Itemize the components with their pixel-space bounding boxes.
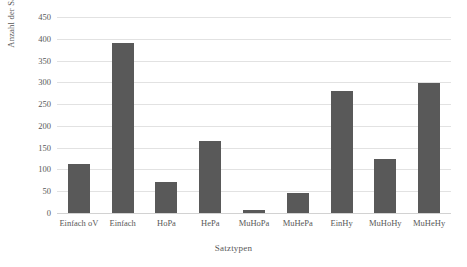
y-axis-tick-label: 450	[38, 12, 51, 22]
x-axis-tick-label: Einfach oV	[59, 218, 98, 228]
bar	[418, 83, 440, 213]
x-axis-tick-label: HePa	[201, 218, 219, 228]
y-axis-tick-label: 150	[38, 143, 51, 153]
y-axis-tick-label: 350	[38, 56, 51, 66]
axis-baseline	[57, 213, 451, 214]
bar	[331, 91, 353, 213]
y-axis-tick-label: 300	[38, 77, 51, 87]
x-axis-tick-label: EinHy	[330, 218, 352, 228]
bar	[243, 210, 265, 213]
y-axis-tick-label: 200	[38, 121, 51, 131]
x-axis-tick-label: Einfach	[109, 218, 135, 228]
x-axis-title: Satztypen	[0, 243, 467, 253]
x-axis-tick-label: MuHeHy	[413, 218, 445, 228]
y-axis-tick-label: 100	[38, 164, 51, 174]
y-axis-tick-label: 400	[38, 34, 51, 44]
bar	[199, 141, 221, 213]
x-axis-tick-labels: Einfach oVEinfachHoPaHePaMuHoPaMuHePaEin…	[57, 218, 451, 234]
x-axis-tick-label: HoPa	[157, 218, 176, 228]
bars-layer	[57, 17, 451, 213]
x-axis-tick-label: MuHoHy	[369, 218, 402, 228]
y-axis-tick-label: 250	[38, 99, 51, 109]
y-axis-tick-label: 50	[43, 186, 52, 196]
bar	[287, 193, 309, 213]
bar	[68, 164, 90, 213]
bar-chart-figure: Anzahl der Sätze 05010015020025030035040…	[0, 0, 467, 267]
bar	[374, 159, 396, 213]
y-axis-tick-label: 0	[47, 208, 51, 218]
plot-area: 050100150200250300350400450	[57, 17, 451, 213]
bar	[112, 43, 134, 213]
y-axis-title: Anzahl der Sätze	[6, 0, 22, 82]
bar	[155, 182, 177, 213]
x-axis-tick-label: MuHoPa	[239, 218, 270, 228]
x-axis-tick-label: MuHePa	[283, 218, 313, 228]
